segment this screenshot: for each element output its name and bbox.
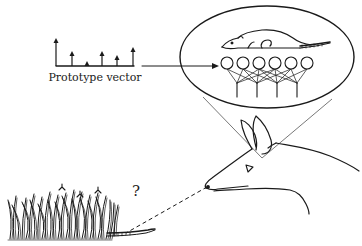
vector-arrows bbox=[54, 38, 136, 66]
grass-clump bbox=[8, 184, 119, 240]
vector-component-arrow bbox=[70, 51, 75, 66]
prototype-vector-label: Prototype vector bbox=[48, 71, 142, 84]
network-node bbox=[269, 57, 281, 69]
rat-drawing bbox=[222, 30, 330, 49]
neural-network bbox=[221, 57, 313, 97]
network-node bbox=[253, 57, 265, 69]
vector-component-arrow bbox=[85, 61, 90, 66]
ear-back bbox=[241, 120, 257, 150]
network-node bbox=[237, 57, 249, 69]
thought-cone bbox=[203, 97, 332, 158]
vector-component-arrow bbox=[54, 38, 59, 66]
fox-head bbox=[205, 116, 359, 214]
vector-component-arrow bbox=[100, 51, 105, 66]
network-node bbox=[221, 57, 233, 69]
thought-bubble bbox=[180, 6, 354, 108]
prototype-vector: Prototype vector bbox=[48, 38, 142, 84]
arrowhead-icon bbox=[212, 63, 219, 69]
diagram-canvas: Prototype vector bbox=[0, 0, 362, 246]
network-node bbox=[301, 57, 313, 69]
question-mark: ? bbox=[132, 182, 140, 200]
network-node bbox=[285, 57, 297, 69]
vector-component-arrow bbox=[131, 47, 136, 66]
vector-component-arrow bbox=[115, 55, 120, 66]
